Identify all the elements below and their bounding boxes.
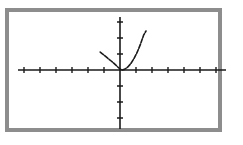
calculator-screenshot: [0, 0, 243, 145]
calculator-screen-frame: [5, 8, 222, 132]
